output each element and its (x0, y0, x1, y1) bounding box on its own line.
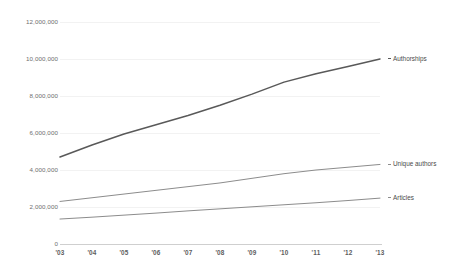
legend-label: Articles (393, 195, 414, 201)
chart-container: 02,000,0004,000,0006,000,0008,000,00010,… (0, 0, 471, 278)
series-line-authorships (60, 59, 380, 157)
legend-item-unique-authors: Unique authors (388, 161, 436, 167)
legend-dash-icon (388, 164, 391, 165)
plot-area (0, 0, 471, 278)
legend-dash-icon (388, 58, 391, 59)
legend-item-authorships: Authorships (388, 56, 427, 62)
legend-label: Unique authors (393, 161, 436, 167)
legend-label: Authorships (393, 56, 427, 62)
legend-item-articles: Articles (388, 195, 414, 201)
series-line-unique-authors (60, 164, 380, 201)
series-line-articles (60, 198, 380, 219)
legend-dash-icon (388, 197, 391, 198)
